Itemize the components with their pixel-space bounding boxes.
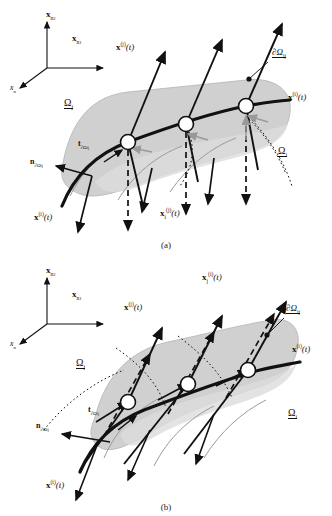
boundary-label-a: ∂Ωij	[272, 48, 286, 59]
axes-triad-b	[20, 278, 103, 344]
axis-label-horizontal-b: xn1	[72, 290, 82, 301]
panel-b-graphic	[0, 258, 332, 516]
axis-label-horizontal-a: xn1	[72, 34, 82, 45]
panel-a: xn2 xn1 xn x(j)(t) x(i)(t) x(i)(t) xi(j)…	[0, 0, 332, 258]
domain-label-upper-a: Ωj	[64, 98, 73, 110]
trajectory-label-i-right-a: x(i)(t)	[288, 92, 306, 102]
panel-caption-a: (a)	[0, 240, 332, 250]
domain-label-lower-a: Ωi	[278, 146, 287, 158]
trajectory-label-j-b: x(j)(t)	[124, 302, 142, 312]
trajectory-label-i-right-b: x(i)(t)	[292, 344, 310, 354]
axis-label-vertical-a: xn2	[46, 10, 56, 21]
trajectory-label-i-bottom-a: x(i)(t)	[34, 212, 52, 222]
tangent-vector-label-b: t∂Ωij	[88, 406, 99, 417]
axis-label-depth-a: xn	[10, 84, 16, 95]
projected-trajectory-label-b: xj(i)(t)	[202, 272, 222, 284]
axes-triad-a	[20, 22, 103, 88]
normal-vector-label-b: n∂Ωij	[36, 422, 49, 433]
trajectory-label-j-a: x(j)(t)	[116, 42, 134, 52]
panel-caption-b: (b)	[0, 502, 332, 512]
boundary-label-b: ∂Ωij	[286, 304, 300, 315]
projected-trajectory-label-a: xi(j)(t)	[160, 208, 180, 220]
axis-label-vertical-b: xn2	[46, 266, 56, 277]
tangent-vector-label-a: t∂Ωij	[78, 140, 89, 151]
axis-label-depth-b: xn	[10, 340, 16, 351]
domain-label-lower-b: Ωi	[288, 408, 297, 420]
domain-label-upper-b: Ωj	[76, 358, 85, 370]
panel-b: xn2 xn1 xn x(j)(t) x(i)(t) x(i)(t) xj(i)…	[0, 258, 332, 516]
normal-vector-label-a: n∂Ωij	[30, 158, 43, 169]
trajectory-label-i-bottom-b: x(i)(t)	[46, 480, 64, 490]
